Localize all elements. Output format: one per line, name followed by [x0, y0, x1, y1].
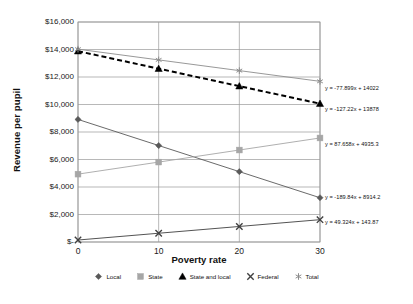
legend-label: Total: [306, 273, 319, 280]
y-axis-tick-label: $12,000: [28, 73, 74, 81]
data-point-x: [247, 273, 253, 279]
marker-triangle: [179, 273, 186, 279]
legend-item-state-and-local[interactable]: State and local: [178, 272, 231, 281]
y-axis-title: Revenue per pupil: [11, 88, 22, 172]
y-axis-tick-label: $14,000: [28, 46, 74, 54]
y-axis-tick-label: $-: [28, 238, 74, 246]
legend-item-local[interactable]: Local: [94, 272, 121, 281]
legend-label: Local: [106, 273, 121, 280]
legend-label: Federal: [258, 273, 279, 280]
y-axis-title-wrap: Revenue per pupil: [8, 60, 24, 200]
legend-item-total[interactable]: Total: [294, 272, 319, 281]
data-point-square: [75, 171, 81, 177]
data-point-square: [156, 159, 162, 165]
legend-item-state[interactable]: State: [136, 272, 162, 281]
y-axis-tick-labels: $16,000$14,000$12,000$10,000$8,000$6,000…: [26, 0, 74, 304]
legend-item-federal[interactable]: Federal: [246, 272, 279, 281]
legend-marker-triangle-icon: [178, 272, 187, 281]
legend-label: State: [148, 273, 162, 280]
trendline-equation: y = -77.899x + 14022: [325, 85, 379, 91]
y-axis-tick-label: $2,000: [28, 211, 74, 219]
x-axis-title: Poverty rate: [78, 254, 320, 265]
chart-container: Revenue per pupil $16,000$14,000$12,000$…: [0, 0, 413, 304]
chart-legend: LocalStateState and localFederalTotal: [0, 272, 413, 281]
marker-square: [236, 147, 242, 153]
data-point-triangle: [179, 273, 186, 279]
marker-square: [317, 135, 323, 141]
data-point-square: [138, 274, 144, 280]
legend-marker-asterisk-icon: [294, 272, 303, 281]
marker-diamond: [96, 273, 102, 279]
y-axis-tick-label: $6,000: [28, 156, 74, 164]
data-point-asterisk: [295, 273, 301, 280]
legend-marker-square-icon: [136, 272, 145, 281]
data-point-square: [236, 147, 242, 153]
trendline-equation: y = -189.84x + 8914.2: [325, 194, 380, 200]
trendline-equation: y = 49.324x + 143.87: [325, 219, 379, 225]
marker-square: [156, 159, 162, 165]
legend-label: State and local: [190, 273, 231, 280]
y-axis-tick-label: $10,000: [28, 101, 74, 109]
marker-x: [247, 273, 253, 279]
marker-square: [75, 171, 81, 177]
legend-marker-diamond-icon: [94, 272, 103, 281]
marker-asterisk: [295, 273, 301, 280]
data-point-square: [317, 135, 323, 141]
legend-marker-x-icon: [246, 272, 255, 281]
trendline-equation: y = -127.22x + 13878: [325, 106, 379, 112]
y-axis-tick-label: $4,000: [28, 183, 74, 191]
marker-square: [138, 274, 144, 280]
data-point-diamond: [96, 273, 102, 279]
trendline-equation: y = 87.658x + 4935.3: [325, 141, 379, 147]
y-axis-tick-label: $8,000: [28, 128, 74, 136]
y-axis-tick-label: $16,000: [28, 18, 74, 26]
